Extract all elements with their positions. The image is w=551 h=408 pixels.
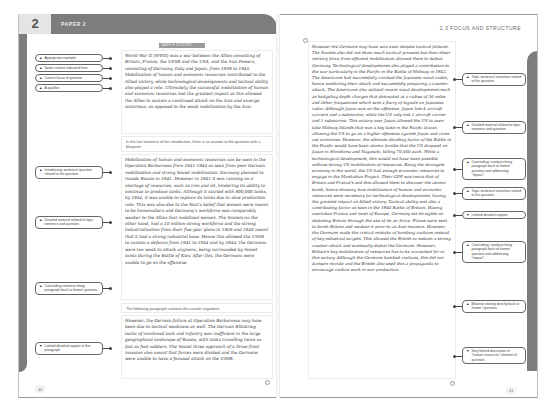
up-triangle-icon: ▲	[466, 302, 470, 306]
arrow-connector	[103, 78, 111, 79]
page-number: 40	[35, 386, 45, 393]
tag-text: Appropriate example	[45, 56, 76, 60]
circle-marker	[450, 381, 455, 386]
arrow-connector	[103, 288, 111, 289]
up-triangle-icon: ▲	[39, 218, 43, 222]
arrow-connector	[103, 88, 111, 89]
annotation-tag: ▲ Correct focus of question	[35, 74, 103, 82]
header-title: PAPER 2	[61, 14, 86, 34]
up-triangle-icon: ▲	[466, 243, 470, 247]
up-triangle-icon: ▲	[39, 56, 43, 60]
note-counter: The following paragraph contains the cou…	[121, 303, 273, 313]
header-band	[19, 14, 277, 34]
chapter-number: 2	[19, 14, 51, 34]
tag-text: Detailed material related to topic sente…	[45, 218, 99, 227]
annotation-tag: ▲ Concluding / analysis bring paragraph …	[462, 241, 526, 263]
section-title: 2.3 FOCUS AND STRUCTURE	[440, 25, 521, 31]
tag-text: Limited detailed support in this paragra…	[45, 344, 99, 353]
arrow-connector	[454, 193, 462, 194]
arrow-connector	[454, 306, 462, 307]
up-triangle-icon: ▲	[39, 76, 43, 80]
corner-curve	[27, 34, 47, 54]
up-triangle-icon: ▲	[39, 86, 43, 90]
annotation-tag: ▲ Concluding sentence bring paragraph ba…	[35, 282, 103, 295]
tag-text: Introductory sentence/ question related …	[45, 168, 99, 177]
arrow-connector	[103, 58, 111, 59]
page-number: 41	[506, 387, 516, 394]
tag-text: Correct focus of question	[45, 76, 83, 80]
down-triangle-icon: ▼	[466, 213, 470, 217]
tag-text: Very limited discussion of "human resour…	[472, 349, 522, 362]
annotation-tag: ▼ Limited detailed support.	[462, 211, 526, 219]
tag-text: Limited detailed support.	[472, 213, 509, 217]
down-triangle-icon: ▼	[39, 344, 43, 348]
up-triangle-icon: ▲	[39, 66, 43, 70]
arrow-connector	[103, 172, 111, 173]
arrow-connector	[454, 252, 462, 253]
tag-text: Material relating directly back to theme…	[472, 302, 522, 311]
annotation-tag: ▲ Some context indicated here	[35, 64, 103, 72]
body-paragraph: Mobilization of human and economic resou…	[121, 154, 273, 300]
tag-text: Some context indicated here	[45, 66, 88, 70]
note-intro: In the last sentence of the introduction…	[121, 136, 273, 152]
up-triangle-icon: ▲	[466, 189, 470, 193]
up-triangle-icon: ▲	[39, 284, 43, 288]
up-triangle-icon: ▲	[39, 168, 43, 172]
tag-text: Topic sentence/ assertion related to the…	[472, 75, 522, 84]
tag-text: Topic sentence/ assertion related to the…	[472, 189, 522, 198]
tag-text: Concluding / analysis bring paragraph ba…	[472, 243, 522, 261]
annotation-tag: ▲ Appropriate example	[35, 54, 103, 62]
tag-text: Detailed material related to topic sente…	[472, 123, 522, 132]
intro-paragraph: World War II (WWII) was a war between th…	[121, 50, 273, 134]
arrow-connector	[103, 348, 111, 349]
sample-answer-label: SAMPLE STUDENT ANSWER	[159, 43, 205, 48]
up-triangle-icon: ▲	[466, 75, 470, 79]
down-triangle-icon: ▼	[466, 349, 470, 353]
tag-text: Concluding / analysis bring paragraph ba…	[472, 160, 522, 178]
circle-marker	[265, 380, 270, 385]
arrow-connector	[454, 215, 462, 216]
annotation-tag: ▲ Topic sentence/ assertion related to t…	[462, 73, 526, 86]
book-spread: 2 PAPER 2 SAMPLE STUDENT ANSWER World Wa…	[18, 14, 538, 398]
tag-text: Concluding sentence bring paragraph back…	[45, 284, 99, 293]
annotation-tag: ▲ Detailed material related to topic sen…	[35, 216, 103, 229]
counter-paragraph: However, the German failure at Operation…	[121, 315, 273, 379]
left-page: 2 PAPER 2 SAMPLE STUDENT ANSWER World Wa…	[18, 14, 276, 398]
arrow-connector	[103, 222, 111, 223]
arrow-connector	[454, 169, 462, 170]
right-page: 2.3 FOCUS AND STRUCTURE However the Germ…	[280, 14, 538, 398]
main-paragraph: However the Germans may have won even de…	[308, 41, 456, 379]
arrow-connector	[454, 127, 462, 128]
up-triangle-icon: ▲	[466, 123, 470, 127]
annotation-tag: ▲ Concluding / analysis bring paragraph …	[462, 158, 526, 180]
annotation-tag: ▲ Material relating directly back to the…	[462, 300, 526, 313]
annotation-tag: ▲ Topic sentence/ assertion related to t…	[462, 187, 526, 200]
side-band	[19, 34, 27, 372]
arrow-connector	[454, 356, 462, 357]
up-triangle-icon: ▲	[466, 160, 470, 164]
tag-text: A qualifier	[45, 86, 60, 90]
annotation-tag: ▲ Detailed material related to topic sen…	[462, 121, 526, 134]
annotation-tag: ▲ A qualifier	[35, 84, 103, 92]
side-band	[527, 51, 537, 371]
annotation-tag: ▲ Introductory sentence/ question relate…	[35, 166, 103, 179]
annotation-tag: ▼ Limited detailed support in this parag…	[35, 342, 103, 355]
arrow-connector	[103, 68, 111, 69]
arrow-connector	[454, 79, 462, 80]
annotation-tag: ▼ Very limited discussion of "human reso…	[462, 347, 526, 364]
